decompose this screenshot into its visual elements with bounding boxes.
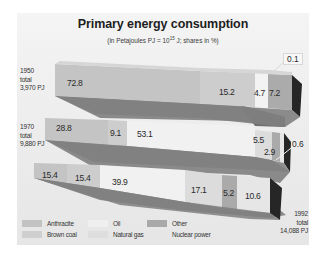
value-1970-oil: 53.1	[137, 129, 153, 139]
legend-item-brown-coal: Brown coal	[22, 230, 77, 238]
legend-swatch	[22, 231, 42, 238]
legend-swatch	[88, 220, 108, 227]
legend-swatch	[147, 231, 167, 238]
value-1970-natural-gas: 5.5	[253, 135, 265, 145]
value-1992-other: 5.2	[223, 188, 235, 198]
legend-swatch	[22, 220, 42, 227]
callout-1970-nuclear: 0.6	[289, 139, 307, 149]
legend-swatch	[88, 231, 108, 238]
legend-item-nuclear-power: Nuclear power	[147, 230, 211, 238]
value-1970-anthracite: 28.8	[56, 123, 72, 133]
value-1992-anthracite: 15.4	[42, 170, 58, 180]
legend-item-oil: Oil	[88, 219, 120, 227]
value-1992-brown-coal: 15.4	[75, 173, 91, 183]
row-label-1970: 1970total9,880 PJ	[20, 123, 44, 149]
value-1970-brown-coal: 9.1	[110, 128, 122, 138]
value-1970-other: 2.9	[264, 147, 276, 157]
value-1950-other: 7.2	[269, 88, 281, 98]
value-1992-oil: 39.9	[112, 177, 128, 187]
bar-1950: 72.8 15.2 4.7 7.2	[55, 58, 302, 127]
chart-legend: Anthracite Brown coal Oil Natural gas Ot…	[22, 219, 222, 243]
value-1992-natural-gas: 17.1	[191, 185, 207, 195]
bar-1970-nuclear	[280, 133, 284, 163]
row-label-1950: 1950total3,970 PJ	[20, 67, 44, 93]
legend-swatch	[147, 220, 167, 227]
value-1992-nuclear: 10.6	[245, 191, 261, 201]
row-label-1992: 1992total14,088 PJ	[268, 210, 308, 236]
bar-1950-end-cap	[292, 75, 302, 117]
legend-item-anthracite: Anthracite	[22, 219, 74, 227]
value-1950-anthracite: 72.8	[67, 78, 83, 88]
value-1950-brown-coal: 15.2	[219, 87, 235, 97]
value-1950-oil: 4.7	[254, 88, 266, 98]
callout-1950-natural-gas: 0.1	[283, 53, 303, 65]
legend-item-natural-gas: Natural gas	[88, 230, 143, 238]
legend-item-other: Other	[147, 219, 187, 227]
